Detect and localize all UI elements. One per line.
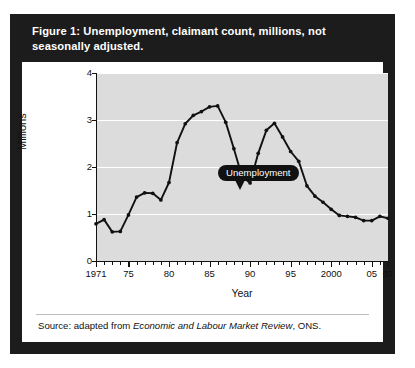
source-suffix: , ONS. bbox=[292, 320, 321, 331]
data-point bbox=[224, 121, 228, 125]
source-publication: Economic and Labour Market Review bbox=[133, 320, 292, 331]
data-point bbox=[297, 160, 301, 164]
data-point bbox=[200, 110, 204, 114]
data-point bbox=[208, 105, 212, 109]
figure-frame: Figure 1: Unemployment, claimant count, … bbox=[10, 14, 395, 354]
data-point bbox=[191, 113, 195, 117]
data-point bbox=[273, 121, 277, 125]
data-point bbox=[183, 122, 187, 126]
source-note: Source: adapted from Economic and Labour… bbox=[38, 320, 373, 331]
data-point bbox=[337, 214, 341, 218]
data-point bbox=[321, 200, 325, 204]
data-point bbox=[256, 152, 260, 156]
data-point bbox=[313, 194, 317, 198]
data-point bbox=[151, 191, 155, 195]
data-point bbox=[264, 128, 268, 132]
data-point bbox=[329, 207, 333, 211]
data-point bbox=[248, 181, 252, 185]
data-point bbox=[362, 219, 366, 223]
figure-title: Figure 1: Unemployment, claimant count, … bbox=[32, 24, 362, 54]
data-point bbox=[378, 215, 382, 219]
data-point bbox=[94, 222, 98, 226]
source-prefix: Source: adapted from bbox=[38, 320, 133, 331]
data-point bbox=[232, 147, 236, 151]
unemployment-callout: Unemployment bbox=[218, 165, 299, 181]
data-point bbox=[305, 184, 309, 188]
data-point bbox=[118, 230, 122, 234]
data-point bbox=[281, 135, 285, 139]
figure-panel: 01234 1971758085909520000507 Millions Ye… bbox=[22, 62, 383, 342]
x-tick-label-2007: 07 bbox=[383, 268, 394, 279]
data-point bbox=[175, 141, 179, 145]
data-point bbox=[159, 198, 163, 202]
data-point bbox=[167, 181, 171, 185]
data-point bbox=[289, 150, 293, 154]
callout-label: Unemployment bbox=[218, 165, 299, 181]
data-point bbox=[110, 230, 114, 234]
unemployment-line-chart: 01234 1971758085909520000507 Millions Ye… bbox=[22, 62, 383, 310]
data-point bbox=[354, 215, 358, 219]
data-point bbox=[370, 219, 374, 223]
callout-pointer-triangle bbox=[235, 180, 245, 190]
data-point bbox=[102, 218, 106, 222]
data-point bbox=[216, 104, 220, 108]
data-point bbox=[143, 191, 147, 195]
x-tick-2007 bbox=[388, 262, 389, 267]
data-point bbox=[127, 213, 131, 217]
source-divider bbox=[36, 314, 369, 315]
data-point bbox=[135, 195, 139, 199]
data-point bbox=[346, 215, 350, 219]
data-point bbox=[386, 216, 390, 220]
series-layer bbox=[22, 62, 383, 310]
